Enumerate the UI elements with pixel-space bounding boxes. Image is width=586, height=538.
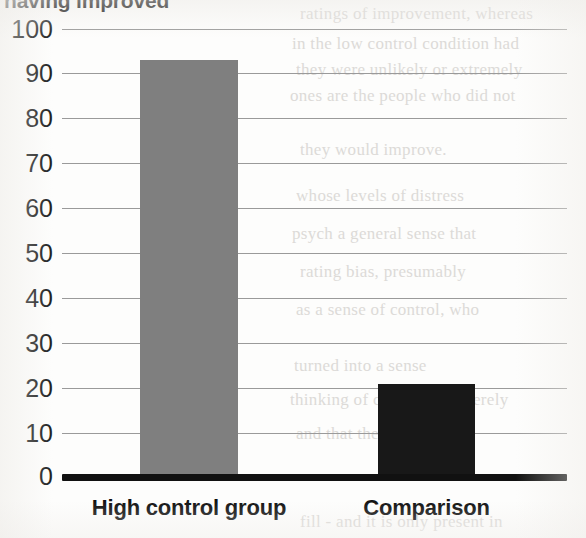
y-axis-label-70: 70 [0, 151, 53, 176]
gridline-70 [62, 163, 567, 164]
y-axis-label-80: 80 [0, 106, 53, 131]
x-axis-baseline [62, 474, 567, 481]
x-axis-label-comparison: Comparison [340, 495, 513, 521]
gridline-30 [62, 343, 567, 344]
chart-title: having improved [4, 0, 169, 13]
bar-comparison[interactable] [378, 384, 475, 478]
gridline-40 [62, 298, 567, 299]
scanned-page: ratings of improvement, whereas in the l… [0, 0, 586, 538]
x-axis-label-high-control-group: High control group [89, 495, 289, 521]
y-axis-label-100: 100 [0, 17, 53, 42]
y-axis-label-0: 0 [0, 464, 53, 489]
gridline-50 [62, 253, 567, 254]
gridline-90 [62, 73, 567, 74]
gridline-80 [62, 118, 567, 119]
y-axis-label-40: 40 [0, 286, 53, 311]
y-axis-label-90: 90 [0, 61, 53, 86]
y-axis-label-10: 10 [0, 421, 53, 446]
gridline-100 [62, 29, 567, 30]
y-axis-label-30: 30 [0, 331, 53, 356]
gridline-10 [62, 433, 567, 434]
y-axis-label-20: 20 [0, 376, 53, 401]
y-axis-label-50: 50 [0, 241, 53, 266]
gridline-60 [62, 208, 567, 209]
bar-chart: having improved 100 90 80 70 60 50 40 30… [0, 0, 586, 538]
gridline-20 [62, 388, 567, 389]
y-axis-label-60: 60 [0, 196, 53, 221]
bar-high-control-group[interactable] [140, 60, 238, 478]
